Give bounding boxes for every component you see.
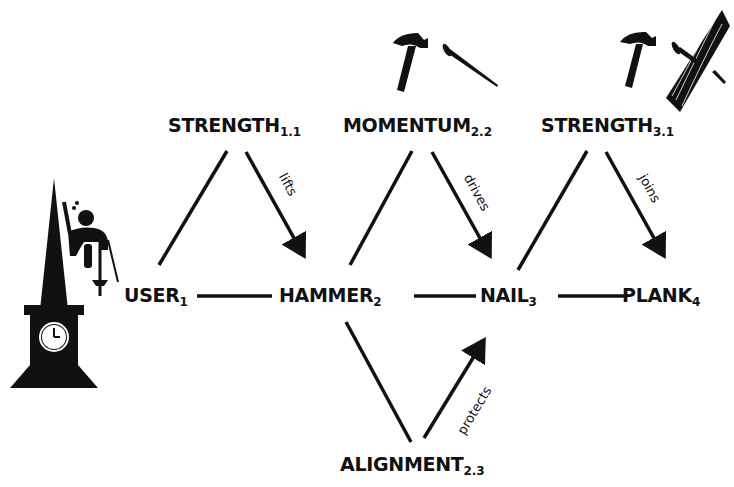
node-hammer: HAMMER2 xyxy=(279,286,382,308)
node-label: NAIL xyxy=(480,284,529,306)
node-label: USER xyxy=(124,284,180,306)
node-label: PLANK xyxy=(622,284,692,306)
node-subscript: 1.1 xyxy=(280,125,301,139)
node-subscript: 2.2 xyxy=(471,125,492,139)
node-strength-1-1: STRENGTH1.1 xyxy=(168,116,301,138)
node-user: USER1 xyxy=(124,286,188,308)
node-momentum-2-2: MOMENTUM2.2 xyxy=(343,116,492,138)
diagram-canvas xyxy=(0,0,734,487)
node-label: HAMMER xyxy=(279,284,373,306)
hammer-nail-icon xyxy=(393,33,498,92)
node-strength-3-1: STRENGTH3.1 xyxy=(541,116,674,138)
node-plank: PLANK4 xyxy=(622,286,700,308)
edge-lines xyxy=(159,151,624,442)
hammer-nail-plank-icon xyxy=(620,10,730,112)
node-subscript: 1 xyxy=(180,295,188,309)
node-subscript: 3.1 xyxy=(653,125,674,139)
node-subscript: 2.3 xyxy=(463,464,484,478)
node-label: STRENGTH xyxy=(541,114,653,136)
node-subscript: 4 xyxy=(692,295,700,309)
node-subscript: 3 xyxy=(529,295,537,309)
node-alignment-2-3: ALIGNMENT2.3 xyxy=(340,455,485,477)
node-subscript: 2 xyxy=(373,295,381,309)
node-label: MOMENTUM xyxy=(343,114,471,136)
clock-tower-climber-icon xyxy=(10,178,118,388)
node-nail: NAIL3 xyxy=(480,286,537,308)
node-label: ALIGNMENT xyxy=(340,453,463,475)
node-label: STRENGTH xyxy=(168,114,280,136)
